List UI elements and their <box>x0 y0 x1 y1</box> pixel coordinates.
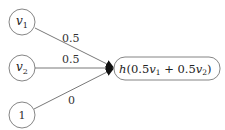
weight-label-v1: 0.5 <box>62 32 80 45</box>
weight-label-v2: 0.5 <box>62 53 80 66</box>
node-v1: v1 <box>9 9 35 35</box>
edge-bias: 0 <box>34 69 113 109</box>
output-expression: h(0.5v1 + 0.5v2) <box>119 62 212 78</box>
node-v1-sub: 1 <box>23 21 28 30</box>
node-v2: v2 <box>9 55 35 81</box>
weight-label-bias: 0 <box>68 94 75 107</box>
node-bias-label: 1 <box>19 109 26 122</box>
node-bias: 1 <box>9 102 35 128</box>
edge-v2: 0.5 <box>35 53 113 68</box>
node-v2-sub: 2 <box>23 67 28 76</box>
neuron-diagram: 0.5 0.5 0 v1 v2 1 h(0.5v1 + 0.5v2) <box>0 0 225 130</box>
output-node: h(0.5v1 + 0.5v2) <box>114 57 220 80</box>
